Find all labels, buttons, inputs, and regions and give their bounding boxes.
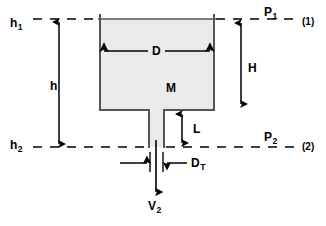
label-station-2: (2) [302,142,314,152]
tank-body-fill [100,19,214,110]
label-h1: h1 [10,17,23,31]
label-station-1: (1) [302,17,314,27]
dimension-DT [120,152,187,172]
label-dt: DT [191,157,205,171]
label-h2: h2 [10,139,23,153]
label-p2: P2 [264,131,277,145]
diagram-graphics [0,0,326,226]
label-h: h [50,80,57,92]
label-L: L [193,123,200,135]
label-H: H [248,62,257,74]
label-v2: V2 [148,200,161,214]
diagram-canvas: h1 h2 P1 P2 (1) (2) h H D M L DT V2 [0,0,326,226]
label-M: M [166,82,176,94]
label-D: D [152,45,161,57]
label-p1: P1 [264,6,277,20]
